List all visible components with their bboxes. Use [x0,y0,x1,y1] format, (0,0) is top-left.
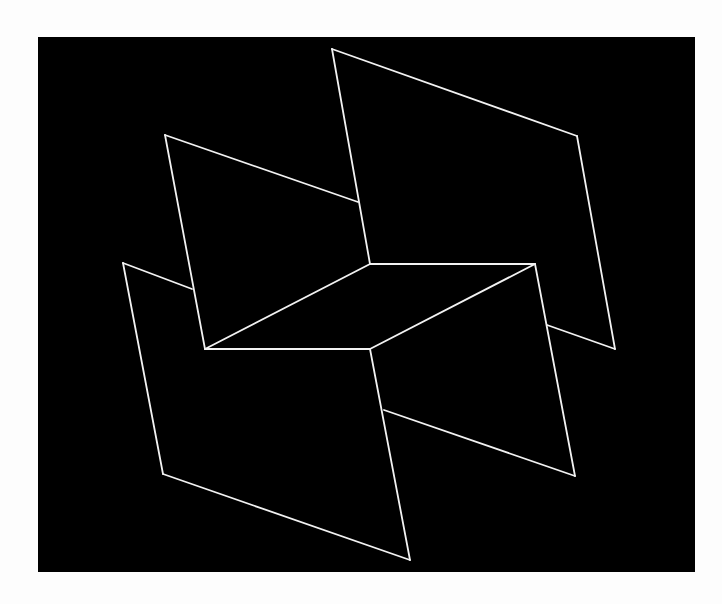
black-ground-panel [38,37,695,572]
geometric-line-artwork [0,0,722,604]
